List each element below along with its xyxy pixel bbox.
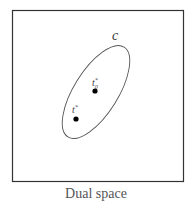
point-t0-star-label: t*0 [92,77,98,90]
dual-space-diagram: c t*0 t* [0,0,192,210]
frame-box [13,11,184,182]
point-t-star [73,116,78,121]
point-t-star-label: t* [72,104,78,115]
region-c-label: c [112,28,119,43]
caption: Dual space [0,186,192,202]
